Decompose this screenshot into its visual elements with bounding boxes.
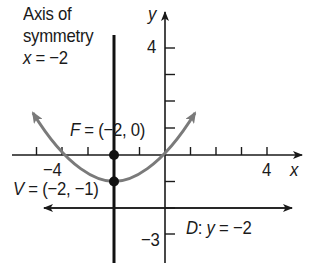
y-tick-label-4: 4 <box>147 37 156 57</box>
x-axis <box>12 147 302 155</box>
focus-label: F = (−2, 0) <box>70 120 145 140</box>
y-axis-ticks <box>165 48 175 234</box>
directrix-label: D: y = −2 <box>186 218 251 238</box>
parabola-diagram: Axis of symmetry x = −2 y 4 F = (−2, 0) … <box>0 0 310 263</box>
vertex-label: V = (−2, −1) <box>13 179 99 199</box>
directrix-eq: = −2 <box>215 217 252 238</box>
y-tick-label-neg3: −3 <box>141 230 160 250</box>
focus-var: F <box>70 119 80 140</box>
axis-of-symmetry-equation: x = −2 <box>23 48 68 68</box>
axis-of-symmetry-label-line2: symmetry <box>23 26 93 46</box>
vertex-point <box>109 177 119 187</box>
axis-of-symmetry-var: x <box>23 47 31 68</box>
focus-eq: = (−2, 0) <box>80 119 145 140</box>
axis-of-symmetry-label-line1: Axis of <box>23 4 71 24</box>
directrix-var: D <box>186 217 198 238</box>
x-tick-label-4: 4 <box>262 160 271 180</box>
focus-point <box>109 150 119 160</box>
x-axis-ticks <box>37 147 268 155</box>
x-tick-label-neg4: −4 <box>43 160 62 180</box>
vertex-eq: = (−2, −1) <box>24 178 99 199</box>
directrix-y: y <box>207 217 215 238</box>
axis-of-symmetry-eq: = −2 <box>31 47 68 68</box>
x-axis-label: x <box>290 160 298 180</box>
y-axis-label: y <box>148 4 156 24</box>
y-axis <box>165 12 175 263</box>
vertex-var: V <box>13 178 24 199</box>
